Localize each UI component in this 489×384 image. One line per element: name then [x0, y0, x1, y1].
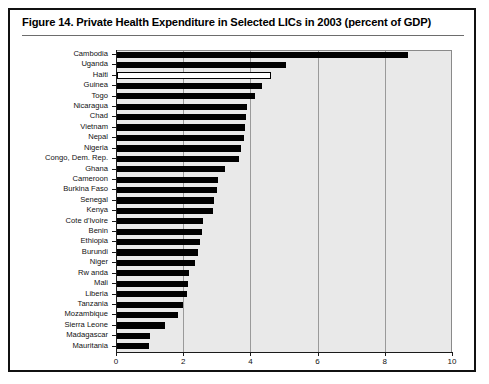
x-axis-label: 8	[370, 357, 400, 366]
x-axis-tick	[183, 352, 184, 356]
category-label: Ethiopia	[0, 236, 108, 246]
category-label: Guinea	[0, 80, 108, 90]
category-label: Chad	[0, 111, 108, 121]
y-axis-tick	[112, 96, 116, 97]
category-label: Vietnam	[0, 122, 108, 132]
x-axis-label: 2	[168, 357, 198, 366]
bar	[117, 187, 217, 193]
category-label: Burundi	[0, 247, 108, 257]
category-label: Tanzania	[0, 299, 108, 309]
x-axis-tick	[250, 352, 251, 356]
x-axis-tick	[452, 352, 453, 356]
category-label: Nicaragua	[0, 101, 108, 111]
bar	[117, 322, 165, 328]
x-axis-label: 4	[235, 357, 265, 366]
bar	[117, 239, 200, 245]
x-axis-tick	[318, 352, 319, 356]
y-axis-tick	[112, 325, 116, 326]
chart-row: Mauritania	[10, 342, 474, 352]
bar	[117, 218, 203, 224]
y-axis-tick	[112, 75, 116, 76]
y-axis-tick	[112, 158, 116, 159]
y-axis-tick	[112, 116, 116, 117]
bar	[117, 93, 255, 99]
bar	[117, 343, 149, 349]
y-axis-tick	[112, 85, 116, 86]
category-label: Madagascar	[0, 330, 108, 340]
bar	[117, 312, 178, 318]
bar	[117, 156, 239, 162]
y-axis-tick	[112, 346, 116, 347]
category-label: Nigeria	[0, 143, 108, 153]
y-axis-tick	[112, 106, 116, 107]
title-divider	[22, 35, 464, 36]
y-axis-tick	[112, 294, 116, 295]
y-axis-tick	[112, 262, 116, 263]
bar	[117, 260, 195, 266]
y-axis-tick	[112, 137, 116, 138]
category-label: Cambodia	[0, 49, 108, 59]
category-label: Mauritania	[0, 341, 108, 351]
y-axis-tick	[112, 283, 116, 284]
y-axis-tick	[112, 127, 116, 128]
y-axis-tick	[112, 221, 116, 222]
bar	[117, 208, 213, 214]
category-label: Cote d'Ivoire	[0, 216, 108, 226]
y-axis-tick	[112, 273, 116, 274]
figure-frame: Figure 14. Private Health Expenditure in…	[8, 8, 476, 372]
category-label: Sierra Leone	[0, 320, 108, 330]
x-axis-label: 10	[437, 357, 467, 366]
y-axis-tick	[112, 189, 116, 190]
chart-plot: CambodiaUgandaHaitiGuineaTogoNicaraguaCh…	[10, 38, 474, 372]
y-axis-tick	[112, 241, 116, 242]
x-axis-label: 6	[303, 357, 333, 366]
y-axis-tick	[112, 314, 116, 315]
y-axis-tick	[112, 200, 116, 201]
bar	[117, 302, 183, 308]
bar	[117, 114, 246, 120]
y-axis-tick	[112, 304, 116, 305]
figure-title: Figure 14. Private Health Expenditure in…	[22, 16, 466, 28]
bar	[117, 52, 408, 58]
category-label: Benin	[0, 226, 108, 236]
category-label: Uganda	[0, 59, 108, 69]
x-axis-line	[116, 352, 453, 353]
category-label: Congo, Dem. Rep.	[0, 153, 108, 163]
category-label: Haiti	[0, 70, 108, 80]
bar	[117, 333, 150, 339]
x-axis-tick	[385, 352, 386, 356]
y-axis-tick	[112, 179, 116, 180]
bar	[117, 72, 271, 78]
bar	[117, 135, 244, 141]
category-label: Ghana	[0, 164, 108, 174]
x-axis-tick	[116, 352, 117, 356]
category-label: Nepal	[0, 132, 108, 142]
y-axis-tick	[112, 148, 116, 149]
y-axis-tick	[112, 335, 116, 336]
y-axis-tick	[112, 210, 116, 211]
bar	[117, 62, 286, 68]
x-axis-label: 0	[101, 357, 131, 366]
bar	[117, 291, 187, 297]
category-label: Mozambique	[0, 309, 108, 319]
category-label: Burkina Faso	[0, 184, 108, 194]
category-label: Kenya	[0, 205, 108, 215]
bar	[117, 83, 262, 89]
bar	[117, 145, 241, 151]
y-axis-tick	[112, 231, 116, 232]
category-label: Senegal	[0, 195, 108, 205]
category-label: Togo	[0, 91, 108, 101]
category-label: Rw anda	[0, 268, 108, 278]
bar	[117, 124, 245, 130]
bar	[117, 177, 218, 183]
y-axis-tick	[112, 169, 116, 170]
bar	[117, 166, 225, 172]
y-axis-tick	[112, 54, 116, 55]
category-label: Niger	[0, 257, 108, 267]
bar	[117, 197, 214, 203]
bar	[117, 104, 247, 110]
bar	[117, 249, 198, 255]
bar	[117, 281, 188, 287]
category-label: Mali	[0, 278, 108, 288]
category-label: Cameroon	[0, 174, 108, 184]
